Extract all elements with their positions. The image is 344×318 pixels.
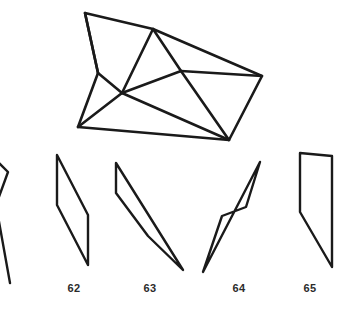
figure-label-63: 63	[135, 282, 165, 294]
caption-layer: 62 63 64 65	[0, 0, 344, 318]
figure-plate: 62 63 64 65	[0, 0, 344, 318]
figure-label-65: 65	[295, 282, 325, 294]
figure-label-62: 62	[59, 282, 89, 294]
figure-label-64: 64	[224, 282, 254, 294]
